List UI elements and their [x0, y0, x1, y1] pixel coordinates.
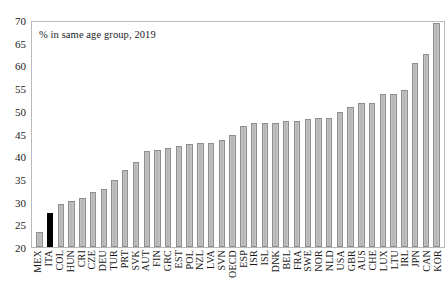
- bar-slot: [131, 22, 142, 247]
- bar-slot: [45, 22, 56, 247]
- y-axis-tick: 70: [15, 16, 26, 27]
- x-label-slot: DNK: [271, 249, 282, 301]
- bar-col[interactable]: [58, 204, 64, 247]
- bar-est[interactable]: [176, 146, 182, 247]
- bar-nld[interactable]: [326, 118, 332, 247]
- bar-lva[interactable]: [208, 143, 214, 247]
- bar-svn[interactable]: [219, 140, 225, 247]
- bar-fra[interactable]: [294, 121, 300, 247]
- bar-nor[interactable]: [315, 118, 321, 247]
- bar-swe[interactable]: [305, 119, 311, 247]
- bar-slot: [367, 22, 378, 247]
- x-axis-label-dnk: DNK: [271, 250, 281, 272]
- x-axis-label-cze: CZE: [87, 250, 97, 270]
- x-axis-label-ita: ITA: [44, 250, 54, 266]
- x-axis-label-irl: IRL: [400, 250, 410, 267]
- x-axis-label-usa: USA: [336, 250, 346, 271]
- x-label-slot: ISL: [260, 249, 271, 301]
- bar-slot: [313, 22, 324, 247]
- plot-area: % in same age group, 2019: [31, 21, 445, 248]
- x-axis-label-isr: ISR: [249, 250, 259, 266]
- y-axis-tick: 20: [15, 243, 26, 254]
- bar-jpn[interactable]: [412, 63, 418, 248]
- bar-slot: [163, 22, 174, 247]
- x-axis-label-est: EST: [174, 250, 184, 268]
- bar-mex[interactable]: [36, 232, 42, 247]
- bar-prt[interactable]: [122, 170, 128, 247]
- bar-gbr[interactable]: [347, 107, 353, 247]
- bar-isl[interactable]: [262, 123, 268, 247]
- bar-deu[interactable]: [101, 189, 107, 247]
- x-axis-label-nzl: NZL: [195, 250, 205, 270]
- bar-series: [32, 22, 444, 247]
- bar-slot: [281, 22, 292, 247]
- bar-tur[interactable]: [111, 180, 117, 248]
- bar-slot: [195, 22, 206, 247]
- x-label-slot: CAN: [422, 249, 433, 301]
- x-label-slot: PRT: [119, 249, 130, 301]
- bar-slot: [388, 22, 399, 247]
- bar-slot: [420, 22, 431, 247]
- bar-dnk[interactable]: [272, 123, 278, 247]
- y-axis: 2025303540455055606570: [0, 14, 30, 254]
- bar-slot: [206, 22, 217, 247]
- bar-fin[interactable]: [154, 150, 160, 247]
- bar-ita[interactable]: [47, 213, 53, 247]
- y-axis-tick: 55: [15, 84, 26, 95]
- x-axis-label-col: COL: [55, 250, 65, 271]
- x-label-slot: ITA: [44, 249, 55, 301]
- bar-slot: [184, 22, 195, 247]
- x-label-slot: LVA: [206, 249, 217, 301]
- bar-cze[interactable]: [90, 192, 96, 247]
- y-axis-tick: 65: [15, 38, 26, 49]
- bar-slot: [249, 22, 260, 247]
- x-label-slot: COL: [55, 249, 66, 301]
- bar-slot: [259, 22, 270, 247]
- y-axis-tick: 35: [15, 174, 26, 185]
- bar-esp[interactable]: [240, 126, 246, 247]
- y-axis-tick: 50: [15, 106, 26, 117]
- bar-aus[interactable]: [358, 103, 364, 247]
- bar-oecd[interactable]: [229, 135, 235, 248]
- bar-slot: [98, 22, 109, 247]
- x-axis-label-gbr: GBR: [347, 250, 357, 271]
- x-axis-label-tur: TUR: [109, 250, 119, 271]
- x-axis-label-oecd: OECD: [228, 250, 238, 278]
- bar-nzl[interactable]: [197, 143, 203, 247]
- bar-kor[interactable]: [433, 23, 439, 247]
- bar-slot: [120, 22, 131, 247]
- x-label-slot: GRC: [163, 249, 174, 301]
- bar-pol[interactable]: [186, 144, 192, 248]
- bar-can[interactable]: [423, 54, 429, 248]
- bar-slot: [216, 22, 227, 247]
- x-axis-label-aut: AUT: [141, 250, 151, 271]
- bar-bel[interactable]: [283, 121, 289, 247]
- x-label-slot: OECD: [227, 249, 238, 301]
- bar-grc[interactable]: [165, 148, 171, 247]
- y-axis-tick: 25: [15, 220, 26, 231]
- x-axis-label-nor: NOR: [314, 250, 324, 272]
- x-axis-label-bel: BEL: [282, 250, 292, 270]
- bar-lux[interactable]: [380, 94, 386, 247]
- x-axis-label-lux: LUX: [379, 250, 389, 271]
- bar-isr[interactable]: [251, 123, 257, 247]
- bar-slot: [378, 22, 389, 247]
- x-label-slot: NLD: [325, 249, 336, 301]
- bar-ltu[interactable]: [390, 94, 396, 247]
- bar-che[interactable]: [369, 103, 375, 247]
- y-axis-tick: 40: [15, 152, 26, 163]
- x-axis-label-deu: DEU: [98, 250, 108, 271]
- bar-irl[interactable]: [401, 90, 407, 248]
- x-axis-label-can: CAN: [422, 250, 432, 272]
- bar-cri[interactable]: [79, 198, 85, 248]
- bar-svk[interactable]: [133, 162, 139, 247]
- x-axis-label-grc: GRC: [163, 250, 173, 271]
- bar-hun[interactable]: [68, 201, 74, 247]
- bar-usa[interactable]: [337, 112, 343, 247]
- bar-slot: [152, 22, 163, 247]
- bar-slot: [66, 22, 77, 247]
- bar-aut[interactable]: [144, 151, 150, 247]
- x-label-slot: LUX: [379, 249, 390, 301]
- bar-slot: [410, 22, 421, 247]
- x-label-slot: NOR: [314, 249, 325, 301]
